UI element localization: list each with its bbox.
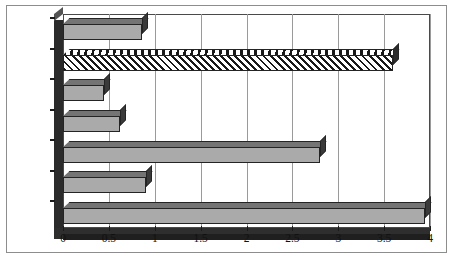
x-axis-label-3: 3 xyxy=(335,232,341,244)
bar-row xyxy=(63,208,430,224)
y-axis-tick xyxy=(50,200,55,202)
y-axis-tick xyxy=(50,170,55,172)
x-axis: 00.511.522.533.54 xyxy=(63,226,430,252)
bar-malaysia xyxy=(63,208,425,224)
bar-row xyxy=(63,147,430,163)
bar-row xyxy=(63,177,430,193)
bar-vietnam xyxy=(63,55,393,71)
x-axis-tick-4 xyxy=(430,226,431,231)
bar-side-face xyxy=(142,12,148,34)
x-axis-label-2: 2 xyxy=(244,232,250,244)
bar-india xyxy=(63,24,142,40)
y-axis-tick xyxy=(50,139,55,141)
bar-china xyxy=(63,147,320,163)
x-axis-tick-0.5 xyxy=(109,226,110,231)
x-axis-label-1.5: 1.5 xyxy=(193,232,207,244)
plot-area xyxy=(63,14,430,228)
x-axis-label-0: 0 xyxy=(60,232,66,244)
bar-row xyxy=(63,55,430,71)
bar-philippines xyxy=(63,116,120,132)
bar-chart-figure: IndiaVietnamIndonesiaPhilippinesChinaTha… xyxy=(0,0,456,262)
x-axis-tick-1 xyxy=(155,226,156,231)
bar-thailand xyxy=(63,177,146,193)
bar-row xyxy=(63,24,430,40)
x-axis-tick-2.5 xyxy=(292,226,293,231)
x-axis-tick-3.5 xyxy=(384,226,385,231)
bar-side-face xyxy=(393,43,399,65)
bar-row xyxy=(63,116,430,132)
y-axis-tick xyxy=(50,78,55,80)
y-axis-tick xyxy=(50,17,55,19)
bar-row xyxy=(63,85,430,101)
y-axis-tick xyxy=(50,109,55,111)
x-axis-label-0.5: 0.5 xyxy=(102,232,116,244)
x-axis-tick-2 xyxy=(247,226,248,231)
x-axis-label-2.5: 2.5 xyxy=(285,232,299,244)
bar-indonesia xyxy=(63,85,104,101)
bar-side-face xyxy=(104,73,110,95)
y-axis-wall xyxy=(54,20,63,234)
y-axis-tick xyxy=(50,48,55,50)
x-axis-label-4: 4 xyxy=(427,232,433,244)
x-axis-tick-1.5 xyxy=(201,226,202,231)
x-axis-tick-0 xyxy=(63,226,64,231)
x-axis-label-1: 1 xyxy=(152,232,158,244)
bar-side-face xyxy=(120,104,126,126)
x-axis-tick-3 xyxy=(338,226,339,231)
x-axis-label-3.5: 3.5 xyxy=(377,232,391,244)
